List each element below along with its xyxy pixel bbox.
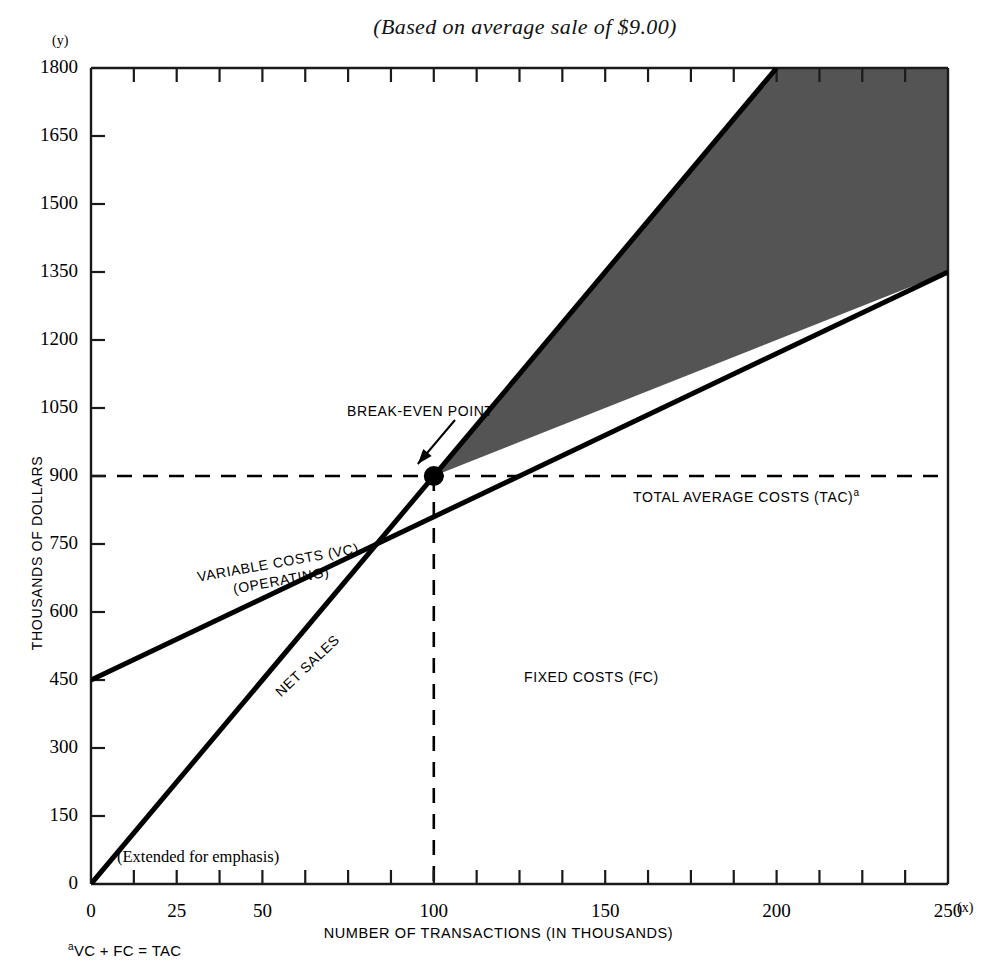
extended-for-emphasis-label: (Extended for emphasis)	[117, 847, 279, 867]
total-average-costs-footnote-marker: a	[853, 487, 859, 498]
fixed-costs-label: FIXED COSTS (FC)	[524, 669, 659, 685]
break-even-point-marker	[424, 466, 444, 486]
profit-region-shading	[434, 68, 948, 476]
plot-svg	[0, 0, 997, 965]
break-even-label: BREAK-EVEN POINT	[347, 403, 494, 419]
total-average-costs-label: TOTAL AVERAGE COSTS (TAC)a	[633, 487, 860, 505]
chart-canvas: (Based on average sale of $9.00) (y) (x)…	[0, 0, 997, 965]
total-average-costs-text: TOTAL AVERAGE COSTS (TAC)	[633, 489, 853, 505]
